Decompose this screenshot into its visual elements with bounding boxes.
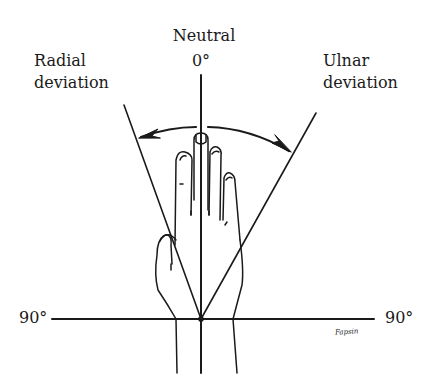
ulnar-deviation-line bbox=[201, 113, 316, 319]
ulnar-label-line2: deviation bbox=[323, 73, 398, 93]
arrow-left-icon bbox=[139, 129, 160, 138]
illustrator-signature: Fapsin bbox=[335, 327, 359, 337]
arc-right bbox=[208, 127, 289, 151]
right-90-label: 90° bbox=[385, 308, 413, 328]
neutral-angle-label: 0° bbox=[192, 51, 210, 71]
radial-label-line2: deviation bbox=[34, 73, 109, 93]
vertex-point bbox=[199, 317, 204, 322]
left-90-label: 90° bbox=[19, 308, 47, 328]
arrow-right-icon bbox=[272, 135, 291, 152]
ulnar-label-line1: Ulnar bbox=[323, 51, 369, 71]
hand-drawing bbox=[156, 133, 243, 373]
radial-deviation-line bbox=[124, 105, 201, 319]
radial-label-line1: Radial bbox=[34, 51, 86, 71]
neutral-label: Neutral bbox=[173, 26, 236, 46]
